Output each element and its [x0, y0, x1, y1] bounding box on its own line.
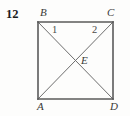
- angle-label-1: 1: [52, 25, 57, 36]
- vertex-label-b: B: [40, 7, 47, 18]
- vertex-label-d: D: [110, 101, 118, 112]
- angle-label-2: 2: [92, 25, 97, 36]
- geometry-figure: 12 B C A D E 1 2: [0, 0, 130, 116]
- vertex-label-e: E: [81, 55, 88, 66]
- vertex-label-a: A: [37, 101, 44, 112]
- problem-number: 12: [6, 8, 19, 21]
- vertex-label-c: C: [107, 7, 114, 18]
